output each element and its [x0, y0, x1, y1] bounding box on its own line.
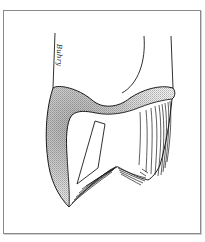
enamel-shading: [46, 87, 175, 208]
artist-signature: Buhry: [55, 44, 63, 66]
tooth-illustration: [0, 0, 205, 242]
right-hatching: [139, 101, 171, 176]
incisal-hatching: [72, 167, 148, 203]
root-outline: [53, 33, 173, 93]
pulp-groove: [77, 121, 105, 184]
